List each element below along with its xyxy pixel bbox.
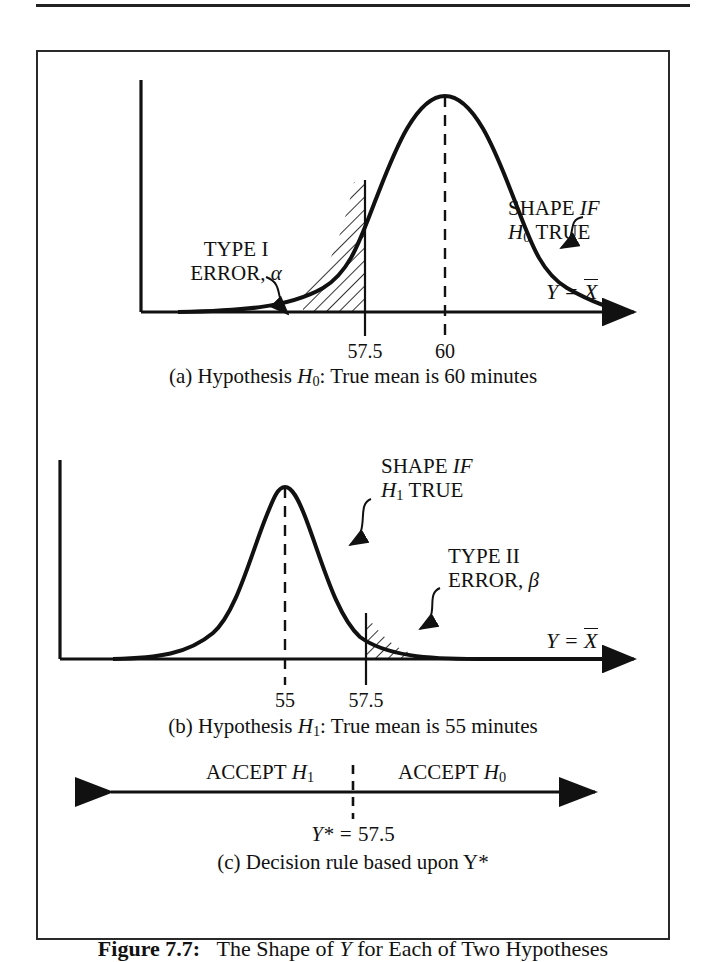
panel-c-caption: (c) Decision rule based upon Y* (38, 851, 668, 875)
panel-c-threshold-label: Y* = 57.5 (38, 823, 668, 847)
panel-a-caption: (a) Hypothesis H0: True mean is 60 minut… (38, 365, 668, 389)
panel-b-type2-label: TYPE II ERROR, β (448, 545, 623, 592)
panel-a-axis-label: Y = X (546, 280, 598, 305)
panel-a-type1-label: TYPE I ERROR, α (156, 238, 316, 285)
panel-b-type2-region (366, 615, 476, 659)
panel-b-shape-leader (350, 499, 371, 545)
figure-title-text: The Shape of Y for Each of Two Hypothese… (217, 936, 609, 961)
figure-title: Figure 7.7: The Shape of Y for Each of T… (38, 936, 668, 962)
panel-a-tick-57: 57.5 (335, 340, 395, 362)
figure-box: TYPE I ERROR, α SHAPE IF H0 TRUE Y = X 5… (36, 50, 670, 940)
page-top-rule (36, 4, 690, 7)
panel-c-accept-h0-label: ACCEPT H0 (398, 761, 506, 785)
panel-a-shape-label: SHAPE IF H0 TRUE (508, 197, 668, 245)
panel-c: ACCEPT H1 ACCEPT H0 Y* = 57.5 (c) Decisi… (38, 747, 668, 882)
panel-b-tick-55: 55 (260, 689, 310, 711)
panel-b-shape-label: SHAPE IF H1 TRUE (381, 455, 551, 503)
panel-b-type2-leader (420, 588, 440, 629)
panel-b-tick-57: 57.5 (336, 689, 396, 711)
panel-b-caption: (b) Hypothesis H1: True mean is 55 minut… (38, 715, 668, 739)
panel-a-tick-60: 60 (420, 340, 470, 362)
panel-c-accept-h1-label: ACCEPT H1 (206, 761, 314, 785)
panel-b: SHAPE IF H1 TRUE TYPE II ERROR, β Y = X … (38, 397, 668, 747)
figure-number: Figure 7.7: (98, 936, 200, 961)
panel-a: TYPE I ERROR, α SHAPE IF H0 TRUE Y = X 5… (38, 52, 668, 397)
panel-b-axis-label: Y = X (546, 629, 598, 654)
